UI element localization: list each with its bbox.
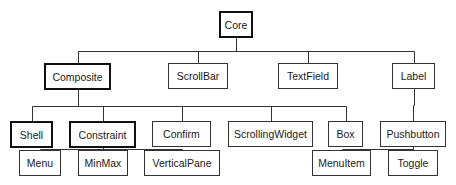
node-label: MenuItem xyxy=(318,157,365,169)
node-label: VerticalPane xyxy=(153,157,212,169)
node-label: TextField xyxy=(287,70,329,82)
node-menuitem: MenuItem xyxy=(312,150,371,176)
node-scrollingwidget: ScrollingWidget xyxy=(228,121,313,147)
node-label: Pushbutton xyxy=(386,128,439,140)
node-label: Menu xyxy=(27,157,53,169)
node-menu: Menu xyxy=(19,150,61,176)
node-label: Label xyxy=(392,63,435,89)
node-scrollbar: ScrollBar xyxy=(168,63,228,89)
node-pushbutton: Pushbutton xyxy=(380,121,446,147)
node-label: MinMax xyxy=(85,157,122,169)
node-label: Confirm xyxy=(163,128,200,140)
node-label: Box xyxy=(336,128,354,140)
node-label: Constraint xyxy=(79,129,127,141)
node-constraint: Constraint xyxy=(69,121,136,148)
node-shell: Shell xyxy=(10,121,53,148)
node-label: Core xyxy=(225,19,248,31)
class-hierarchy-diagram: Core Composite ScrollBar TextField Label… xyxy=(0,0,456,185)
node-label: ScrollBar xyxy=(177,70,220,82)
node-toggle: Toggle xyxy=(388,150,438,176)
node-textfield: TextField xyxy=(278,63,338,89)
node-core: Core xyxy=(219,11,253,38)
node-composite: Composite xyxy=(44,63,111,90)
node-confirm: Confirm xyxy=(152,121,211,147)
node-verticalpane: VerticalPane xyxy=(144,150,220,176)
node-minmax: MinMax xyxy=(78,150,128,176)
node-label: Composite xyxy=(52,71,102,83)
node-box: Box xyxy=(328,121,363,147)
node-label: Label xyxy=(401,70,427,82)
node-label: Shell xyxy=(20,129,43,141)
node-label: Toggle xyxy=(398,157,429,169)
node-label: ScrollingWidget xyxy=(234,128,307,140)
